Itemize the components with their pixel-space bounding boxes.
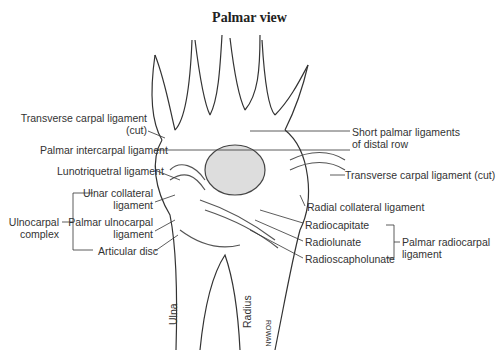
label-radiocapitate: Radiocapitate	[305, 219, 369, 231]
label-line: Ulnar collateral	[83, 187, 153, 199]
label-line: ligament	[83, 199, 153, 211]
label-ulna: Ulna	[167, 303, 179, 325]
label-palmar-radiocarpal-ligament: Palmar radiocarpal ligament	[402, 236, 490, 260]
label-radius: Radius	[241, 295, 253, 328]
artist-signature: ROWAN	[265, 320, 272, 347]
label-line: complex	[9, 228, 59, 240]
label-transverse-carpal-ligament-cut-right: Transverse carpal ligament (cut)	[345, 169, 495, 181]
label-line: ligament	[68, 228, 153, 240]
label-line: ligament	[402, 248, 490, 260]
label-lunotriquetral-ligament: Lunotriquetral ligament	[57, 165, 164, 177]
label-line: Transverse carpal ligament	[21, 112, 147, 124]
label-line: Short palmar ligaments	[352, 126, 460, 138]
label-line: of distal row	[352, 138, 460, 150]
label-transverse-carpal-ligament-cut-left: Transverse carpal ligament (cut)	[21, 112, 147, 136]
label-line: Palmar ulnocarpal	[68, 216, 153, 228]
label-ulnocarpal-complex: Ulnocarpal complex	[9, 216, 59, 240]
label-palmar-intercarpal-ligament: Palmar intercarpal ligament	[40, 144, 168, 156]
label-radial-collateral-ligament: Radial collateral ligament	[307, 201, 424, 213]
label-articular-disc: Articular disc	[98, 245, 158, 257]
label-radiolunate: Radiolunate	[305, 236, 361, 248]
label-short-palmar-ligaments: Short palmar ligaments of distal row	[352, 126, 460, 150]
label-line: Palmar radiocarpal	[402, 236, 490, 248]
label-ulnar-collateral-ligament: Ulnar collateral ligament	[83, 187, 153, 211]
label-radioscapholunate: Radioscapholunate	[305, 253, 395, 265]
label-line: Ulnocarpal	[9, 216, 59, 228]
label-palmar-ulnocarpal-ligament: Palmar ulnocarpal ligament	[68, 216, 153, 240]
label-line: (cut)	[21, 124, 147, 136]
